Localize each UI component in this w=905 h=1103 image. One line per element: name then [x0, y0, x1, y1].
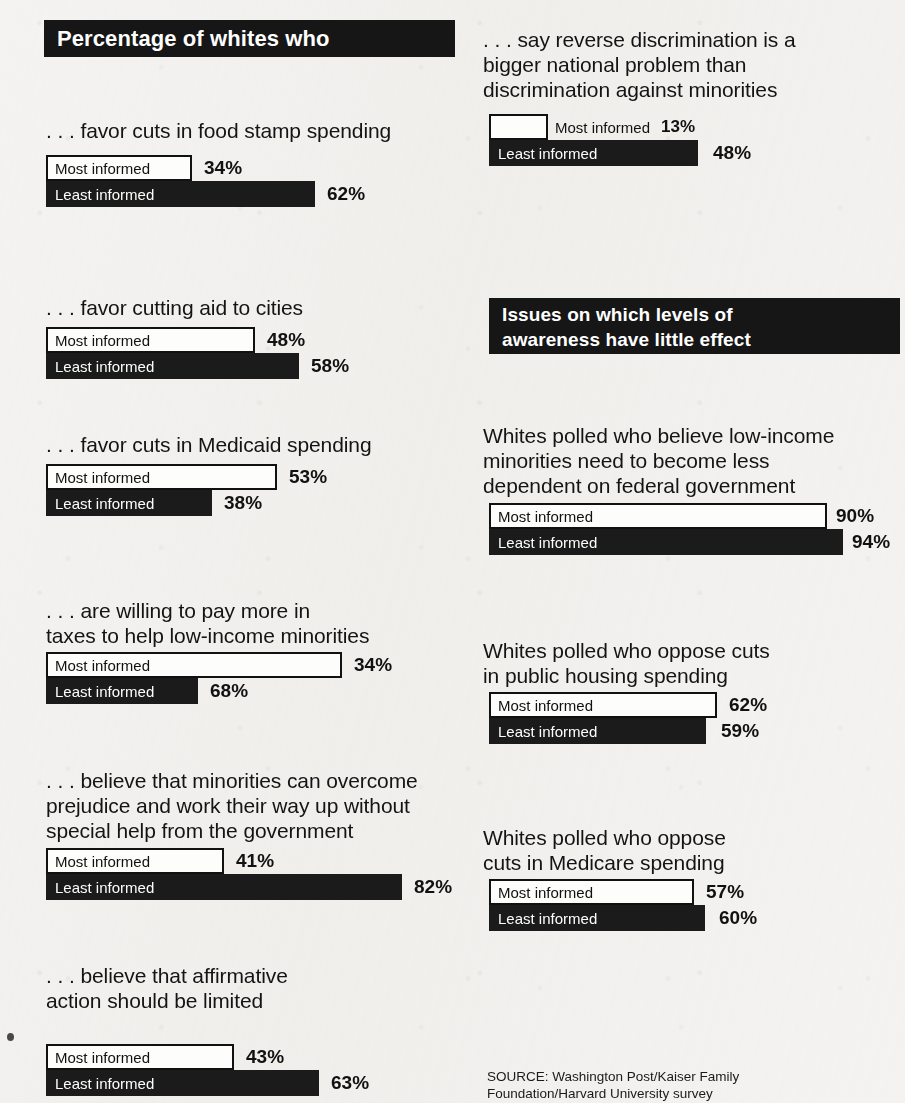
bar-label: Least informed — [491, 911, 597, 926]
bar-value: 13% — [661, 114, 695, 140]
prompt-line: in public housing spending — [483, 663, 905, 688]
bar-most-informed[interactable]: Most informed — [46, 464, 277, 490]
bar-row-most-informed: Most informed 57% — [489, 879, 904, 905]
source-line: SOURCE: Washington Post/Kaiser Family — [487, 1068, 887, 1085]
prompt-line: prejudice and work their way up without — [46, 793, 466, 818]
bar-row-least-informed: Least informed 63% — [46, 1070, 466, 1096]
prompt-line: bigger national problem than — [483, 52, 903, 77]
bar-label: Least informed — [48, 359, 154, 374]
chart-group-reverse-discrimination: Most informed 13% Least informed 48% — [489, 114, 904, 166]
bar-least-informed[interactable]: Least informed — [46, 353, 299, 379]
prompt-overcome-prejudice: . . . believe that minorities can overco… — [46, 768, 466, 843]
bar-row-most-informed: Most informed 90% — [489, 503, 904, 529]
bar-row-least-informed: Least informed 48% — [489, 140, 904, 166]
chart-group-affirmative-action: Most informed 43% Least informed 63% — [46, 1044, 466, 1096]
bar-row-most-informed: Most informed 34% — [46, 652, 466, 678]
bar-most-informed[interactable] — [489, 114, 548, 140]
prompt-line: discrimination against minorities — [483, 77, 903, 102]
prompt-affirmative-action: . . . believe that affirmative action sh… — [46, 963, 456, 1013]
bar-least-informed[interactable]: Least informed — [46, 678, 198, 704]
bar-value: 38% — [224, 490, 262, 516]
bar-value: 57% — [706, 879, 744, 905]
bar-most-informed[interactable]: Most informed — [489, 503, 827, 529]
bar-row-least-informed: Least informed 82% — [46, 874, 466, 900]
bar-label: Least informed — [491, 724, 597, 739]
prompt-line: taxes to help low-income minorities — [46, 623, 456, 648]
section-header-line: Issues on which levels of — [502, 302, 900, 327]
left-column: Percentage of whites who . . . favor cut… — [0, 0, 470, 1103]
bar-value: 90% — [836, 503, 874, 529]
prompt-line: minorities need to become less — [483, 448, 905, 473]
prompt-line: special help from the government — [46, 818, 466, 843]
prompt-line: cuts in Medicare spending — [483, 850, 905, 875]
bar-label: Most informed — [491, 885, 593, 900]
bar-row-least-informed: Least informed 94% — [489, 529, 904, 555]
source-line: Foundation/Harvard University survey — [487, 1085, 887, 1102]
prompt-reverse-discrimination: . . . say reverse discrimination is a bi… — [483, 27, 903, 102]
bar-value: 60% — [719, 905, 757, 931]
bar-row-least-informed: Least informed 60% — [489, 905, 904, 931]
bar-value: 58% — [311, 353, 349, 379]
right-column: . . . say reverse discrimination is a bi… — [470, 0, 905, 1103]
bar-row-most-informed: Most informed 34% — [46, 155, 466, 181]
bar-row-most-informed: Most informed 48% — [46, 327, 466, 353]
section-header-issues-little-effect: Issues on which levels of awareness have… — [489, 298, 900, 354]
prompt-line: dependent on federal government — [483, 473, 905, 498]
bar-value: 62% — [729, 692, 767, 718]
bar-row-most-informed: Most informed 53% — [46, 464, 466, 490]
bar-label: Least informed — [48, 187, 154, 202]
bar-label: Most informed — [48, 854, 150, 869]
bar-label: Least informed — [48, 1076, 154, 1091]
source-note: SOURCE: Washington Post/Kaiser Family Fo… — [487, 1068, 887, 1102]
bar-row-most-informed: Most informed 41% — [46, 848, 466, 874]
bar-least-informed[interactable]: Least informed — [489, 140, 698, 166]
bar-value: 34% — [354, 652, 392, 678]
bar-row-most-informed: Most informed 62% — [489, 692, 904, 718]
bar-value: 34% — [204, 155, 242, 181]
prompt-public-housing: Whites polled who oppose cuts in public … — [483, 638, 905, 688]
bar-most-informed[interactable]: Most informed — [46, 1044, 234, 1070]
scan-artifact-speck — [7, 1033, 14, 1041]
bar-least-informed[interactable]: Least informed — [489, 718, 706, 744]
bar-value: 48% — [267, 327, 305, 353]
prompt-medicare: Whites polled who oppose cuts in Medicar… — [483, 825, 905, 875]
bar-most-informed[interactable]: Most informed — [46, 652, 342, 678]
prompt-line: . . . favor cuts in food stamp spending — [46, 118, 456, 143]
bar-row-most-informed: Most informed 43% — [46, 1044, 466, 1070]
prompt-line: . . . favor cutting aid to cities — [46, 295, 456, 320]
bar-label: Most informed — [48, 1050, 150, 1065]
bar-most-informed[interactable]: Most informed — [46, 327, 255, 353]
bar-value: 43% — [246, 1044, 284, 1070]
bar-least-informed[interactable]: Least informed — [46, 1070, 319, 1096]
chart-group-medicaid: Most informed 53% Least informed 38% — [46, 464, 466, 516]
bar-label: Most informed — [491, 698, 593, 713]
bar-row-most-informed: Most informed 13% — [489, 114, 904, 140]
chart-group-pay-more-taxes: Most informed 34% Least informed 68% — [46, 652, 466, 704]
bar-row-least-informed: Least informed 38% — [46, 490, 466, 516]
bar-least-informed[interactable]: Least informed — [489, 905, 705, 931]
prompt-line: Whites polled who believe low-income — [483, 423, 905, 448]
bar-least-informed[interactable]: Least informed — [489, 529, 843, 555]
prompt-line: . . . favor cuts in Medicaid spending — [46, 432, 456, 457]
prompt-food-stamp: . . . favor cuts in food stamp spending — [46, 118, 456, 143]
bar-most-informed[interactable]: Most informed — [489, 692, 717, 718]
bar-label: Most informed — [555, 114, 650, 140]
prompt-line: Whites polled who oppose cuts — [483, 638, 905, 663]
prompt-line: . . . say reverse discrimination is a — [483, 27, 903, 52]
bar-most-informed[interactable]: Most informed — [46, 848, 224, 874]
bar-label: Most informed — [48, 658, 150, 673]
bar-value: 62% — [327, 181, 365, 207]
prompt-aid-to-cities: . . . favor cutting aid to cities — [46, 295, 456, 320]
bar-label: Least informed — [48, 684, 154, 699]
bar-label: Most informed — [48, 333, 150, 348]
bar-most-informed[interactable]: Most informed — [489, 879, 694, 905]
bar-label: Least informed — [491, 146, 597, 161]
section-header-line: awareness have little effect — [502, 327, 900, 352]
bar-most-informed[interactable]: Most informed — [46, 155, 192, 181]
bar-least-informed[interactable]: Least informed — [46, 181, 315, 207]
bar-row-least-informed: Least informed 62% — [46, 181, 466, 207]
bar-least-informed[interactable]: Least informed — [46, 490, 212, 516]
bar-least-informed[interactable]: Least informed — [46, 874, 402, 900]
bar-value: 41% — [236, 848, 274, 874]
bar-value: 82% — [414, 874, 452, 900]
